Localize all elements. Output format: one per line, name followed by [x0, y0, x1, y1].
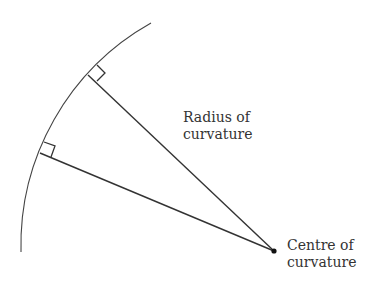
radius-label: Radius of curvature: [183, 109, 252, 143]
centre-label-line1: Centre of: [287, 237, 356, 254]
centre-label-line2: curvature: [287, 254, 356, 271]
radius-label-line1: Radius of: [183, 109, 252, 126]
radius-line-lower: [40, 153, 274, 251]
curve-arc: [21, 23, 151, 252]
right-angle-marker-upper: [97, 65, 105, 81]
centre-point: [271, 248, 276, 253]
radius-line-upper: [88, 75, 274, 251]
radius-label-line2: curvature: [183, 126, 252, 143]
centre-label: Centre of curvature: [287, 237, 356, 271]
